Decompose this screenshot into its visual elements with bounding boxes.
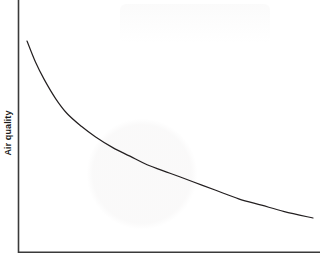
- chart-figure: Air quality: [0, 0, 320, 265]
- plot-area: [0, 0, 320, 265]
- data-curve-air-quality: [27, 41, 313, 218]
